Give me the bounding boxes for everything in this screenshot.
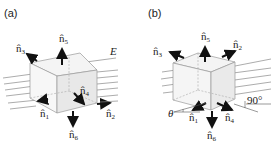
label-n3: n̂3 <box>153 45 163 59</box>
panel-b-label: (b) <box>148 7 161 19</box>
cube-a <box>30 53 97 113</box>
label-n1: n̂1 <box>40 107 50 121</box>
label-n6: n̂6 <box>207 129 217 141</box>
panel-a: (a) <box>3 7 125 141</box>
label-90deg: 90° <box>247 94 262 106</box>
panel-a-label: (a) <box>4 7 17 19</box>
arrow-n3-icon <box>27 54 37 61</box>
label-theta: θ <box>168 107 174 119</box>
label-n5: n̂5 <box>201 30 211 44</box>
label-n4: n̂4 <box>225 111 235 125</box>
label-n6: n̂6 <box>69 128 79 141</box>
panel-b: (b) <box>148 7 271 141</box>
label-E: E⃗ <box>109 45 125 57</box>
arrow-n3-icon <box>170 52 184 58</box>
label-n5: n̂5 <box>59 32 69 46</box>
label-n2: n̂2 <box>106 107 116 121</box>
figure: (a) <box>0 0 271 141</box>
label-n1: n̂1 <box>189 111 199 125</box>
label-n2: n̂2 <box>233 38 243 52</box>
arrow-n2-icon <box>97 103 110 104</box>
label-n3: n̂3 <box>16 42 26 56</box>
arrow-n2-icon <box>222 51 235 57</box>
